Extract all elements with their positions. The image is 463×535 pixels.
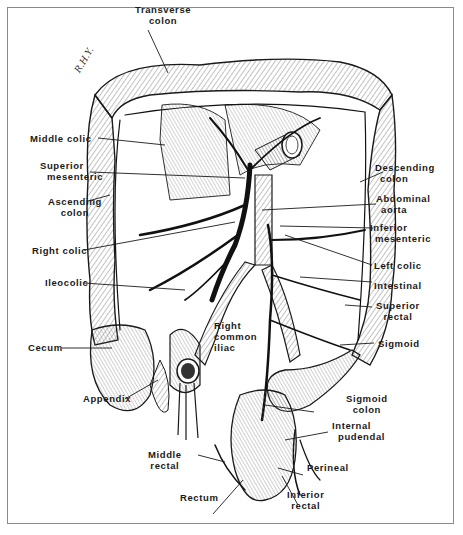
ileum-cut	[170, 329, 200, 440]
label-line: Inferior	[287, 489, 325, 500]
label-inferior-mesenteric: Inferior mesenteric	[370, 222, 431, 244]
label-line: Right	[214, 320, 257, 331]
label-line: Ascending	[48, 196, 102, 207]
label-line: colon	[135, 15, 191, 26]
label-line: colon	[346, 404, 388, 415]
label-line: Intestinal	[374, 280, 422, 291]
label-right-common-iliac: Right common iliac	[214, 320, 257, 353]
label-inferior-rectal: Inferior rectal	[287, 489, 325, 511]
label-superior-rectal: Superior rectal	[376, 300, 420, 322]
label-line: Inferior	[370, 222, 431, 233]
label-line: mesenteric	[40, 171, 103, 182]
label-line: colon	[48, 207, 102, 218]
label-line: pudendal	[332, 431, 385, 442]
label-line: rectal	[287, 500, 325, 511]
label-ileocolic: Ileocolic	[45, 277, 88, 288]
label-line: Abdominal	[376, 193, 430, 204]
label-line: Rectum	[180, 492, 218, 503]
label-internal-pudendal: Internal pudendal	[332, 420, 385, 442]
label-line: Right colic	[32, 245, 87, 256]
label-line: Sigmoid	[378, 338, 420, 349]
label-right-colic: Right colic	[32, 245, 87, 256]
label-line: Perineal	[307, 462, 349, 473]
label-abdominal-aorta: Abdominal aorta	[376, 193, 430, 215]
label-left-colic: Left colic	[374, 260, 422, 271]
label-line: Internal	[332, 420, 385, 431]
label-line: rectal	[148, 460, 182, 471]
label-line: Appendix	[83, 393, 131, 404]
label-line: Ileocolic	[45, 277, 88, 288]
label-line: mesenteric	[370, 233, 431, 244]
label-line: iliac	[214, 342, 257, 353]
label-line: colon	[375, 173, 435, 184]
label-descending-colon: Descending colon	[375, 162, 435, 184]
label-line: Middle colic	[30, 133, 92, 144]
label-transverse-colon: Transverse colon	[135, 4, 191, 26]
label-superior-mesenteric: Superior mesenteric	[40, 160, 103, 182]
label-rectum: Rectum	[180, 492, 218, 503]
label-ascending-colon: Ascending colon	[48, 196, 102, 218]
label-line: common	[214, 331, 257, 342]
label-line: Middle	[148, 449, 182, 460]
label-cecum: Cecum	[28, 342, 63, 353]
label-line: aorta	[376, 204, 430, 215]
label-line: Left colic	[374, 260, 422, 271]
label-line: rectal	[376, 311, 420, 322]
label-line: Superior	[376, 300, 420, 311]
label-line: Superior	[40, 160, 103, 171]
label-line: Sigmoid	[346, 393, 388, 404]
label-middle-rectal: Middle rectal	[148, 449, 182, 471]
label-appendix: Appendix	[83, 393, 131, 404]
label-intestinal: Intestinal	[374, 280, 422, 291]
label-middle-colic: Middle colic	[30, 133, 92, 144]
label-sigmoid: Sigmoid	[378, 338, 420, 349]
label-sigmoid-colon: Sigmoid colon	[346, 393, 388, 415]
label-line: Cecum	[28, 342, 63, 353]
label-line: Transverse	[135, 4, 191, 15]
label-line: Descending	[375, 162, 435, 173]
label-perineal: Perineal	[307, 462, 349, 473]
